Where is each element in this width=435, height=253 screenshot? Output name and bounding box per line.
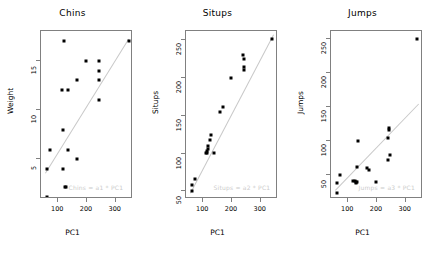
panel-title: Chins [0, 8, 145, 18]
x-tick-mark [202, 198, 203, 202]
panel-title: Situps [145, 8, 290, 18]
x-axis-title: PC1 [290, 228, 435, 237]
x-tick-mark [115, 198, 116, 202]
data-point [241, 54, 244, 57]
x-tick-label: 100 [196, 205, 208, 213]
x-axis-title: PC1 [0, 228, 145, 237]
data-point [75, 79, 78, 82]
data-point [97, 99, 100, 102]
figure-canvas: ChinsChins = a1 * PC151015100200300PC1We… [0, 0, 435, 253]
panel-title: Jumps [290, 8, 435, 18]
data-point [60, 89, 63, 92]
regression-line [45, 39, 129, 174]
y-tick-label: 10 [30, 109, 38, 129]
data-point [45, 168, 48, 171]
data-point [61, 128, 64, 131]
data-point [335, 191, 338, 194]
data-point [386, 159, 389, 162]
x-tick-label: 200 [80, 205, 92, 213]
equation-annotation: Situps = a2 * PC1 [214, 184, 271, 191]
x-tick-label: 100 [51, 205, 63, 213]
panel-chins: ChinsChins = a1 * PC151015100200300PC1We… [0, 0, 145, 253]
data-point [271, 38, 274, 41]
data-point [66, 148, 69, 151]
x-tick-label: 100 [341, 205, 353, 213]
data-point [191, 184, 194, 187]
regression-line [335, 104, 419, 191]
x-tick-mark [347, 198, 348, 202]
x-tick-mark [376, 198, 377, 202]
data-point [84, 59, 87, 62]
data-point [48, 148, 51, 151]
y-tick-label: 100 [320, 140, 328, 160]
y-tick-label: 15 [30, 60, 38, 80]
x-tick-label: 300 [109, 205, 121, 213]
y-tick-label: 50 [320, 174, 328, 194]
x-tick-mark [260, 198, 261, 202]
data-point [242, 69, 245, 72]
data-point [210, 133, 213, 136]
data-point [97, 59, 100, 62]
x-tick-mark [231, 198, 232, 202]
x-tick-mark [57, 198, 58, 202]
data-point [45, 196, 48, 198]
data-point [229, 76, 232, 79]
data-point [61, 168, 64, 171]
data-point [208, 138, 211, 141]
data-point [190, 190, 193, 193]
data-point [218, 110, 221, 113]
y-tick-label: 200 [320, 72, 328, 92]
data-point [212, 151, 215, 154]
data-point [242, 58, 245, 61]
plot-area: Jumps = a3 * PC1 [330, 30, 422, 198]
y-tick-label: 150 [320, 106, 328, 126]
data-point [367, 168, 370, 171]
y-tick-label: 250 [320, 38, 328, 58]
plot-area: Situps = a2 * PC1 [185, 30, 277, 198]
regression-line [190, 34, 274, 193]
y-tick-label: 150 [175, 115, 183, 135]
data-point [355, 166, 358, 169]
y-tick-label: 200 [175, 77, 183, 97]
data-point [205, 151, 208, 154]
x-axis-title: PC1 [145, 228, 290, 237]
equation-annotation: Chins = a1 * PC1 [69, 184, 124, 191]
plot-area: Chins = a1 * PC1 [40, 30, 132, 198]
y-axis-title: Situps [151, 91, 160, 114]
y-tick-label: 50 [175, 190, 183, 210]
panel-situps: SitupsSitups = a2 * PC150100150200250100… [145, 0, 290, 253]
y-tick-label: 100 [175, 153, 183, 173]
data-point [194, 178, 197, 181]
x-tick-mark [405, 198, 406, 202]
data-point [65, 186, 68, 189]
x-tick-label: 200 [225, 205, 237, 213]
data-point [243, 65, 246, 68]
data-point [97, 69, 100, 72]
data-point [97, 79, 100, 82]
data-point [386, 136, 389, 139]
data-point [338, 173, 341, 176]
data-point [336, 182, 339, 185]
panel-jumps: JumpsJumps = a3 * PC15010015020025010020… [290, 0, 435, 253]
x-tick-mark [86, 198, 87, 202]
data-point [127, 39, 130, 42]
y-tick-label: 250 [175, 39, 183, 59]
data-point [388, 128, 391, 131]
y-tick-label: 5 [30, 158, 38, 178]
data-point [356, 139, 359, 142]
x-tick-label: 300 [254, 205, 266, 213]
y-axis-title: Weight [6, 88, 15, 114]
data-point [221, 105, 224, 108]
data-point [416, 38, 419, 41]
equation-annotation: Jumps = a3 * PC1 [359, 184, 415, 191]
x-tick-label: 300 [399, 205, 411, 213]
data-point [66, 89, 69, 92]
data-point [63, 39, 66, 42]
y-axis-title: Jumps [296, 91, 305, 114]
data-point [76, 158, 79, 161]
data-point [388, 153, 391, 156]
x-tick-label: 200 [370, 205, 382, 213]
